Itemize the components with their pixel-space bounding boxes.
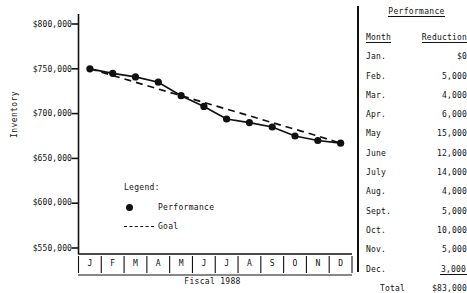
table-row: Nov.5,000 [366,240,467,259]
performance-table-panel: Performance Month Reduction Jan.$0Feb.5,… [366,0,467,293]
data-point-marker [109,70,116,77]
chart-plot-area [0,0,358,293]
x-tick-label: J [216,259,238,268]
data-point-marker [314,137,321,144]
data-point-marker [200,103,207,110]
goal-series-line [90,69,341,143]
performance-table: Month Reduction Jan.$0Feb.5,000Mar.4,000… [366,28,467,293]
table-cell-reduction: 3,000 [413,260,467,279]
table-header-reduction: Reduction [413,28,467,47]
chart-legend: Legend: Performance Goal [124,183,214,239]
x-tick-label: A [238,259,260,268]
table-total-row: Total$83,000 [366,279,467,293]
data-point-marker [155,79,162,86]
table-cell-reduction: 6,000 [413,105,467,124]
dashed-line-icon [124,226,158,227]
table-total-label: Total [366,279,413,293]
x-tick-label: D [330,259,352,268]
table-total-value: $83,000 [413,279,467,293]
filled-circle-icon [124,204,158,211]
chart-panel: Inventory $800,000 $750,000 $700,000 $65… [0,0,358,293]
x-tick-label: S [261,259,283,268]
table-title: Performance [366,7,467,16]
legend-title: Legend: [124,183,214,192]
data-point-marker [86,65,93,72]
table-row: Oct.10,000 [366,221,467,240]
table-row: Dec.3,000 [366,260,467,279]
x-tick-label: J [79,259,101,268]
table-header-month: Month [366,28,413,47]
legend-item-goal: Goal [124,220,214,233]
legend-item-performance: Performance [124,201,214,214]
table-cell-month: Sept. [366,202,413,221]
table-cell-month: July [366,163,413,182]
table-row: May15,000 [366,124,467,143]
table-cell-reduction: 15,000 [413,124,467,143]
table-cell-month: June [366,144,413,163]
x-tick-label: M [124,259,146,268]
x-tick-label: N [307,259,329,268]
table-cell-reduction: 4,000 [413,86,467,105]
chart-page: Inventory $800,000 $750,000 $700,000 $65… [0,0,467,293]
x-tick-label: M [170,259,192,268]
x-tick-label: J [193,259,215,268]
table-cell-month: Feb. [366,67,413,86]
table-row: July14,000 [366,163,467,182]
data-point-marker [337,140,344,147]
table-cell-month: Jan. [366,47,413,66]
legend-item-label: Goal [158,222,178,231]
table-row: Feb.5,000 [366,67,467,86]
table-cell-month: May [366,124,413,143]
table-cell-reduction: 5,000 [413,67,467,86]
table-cell-month: Dec. [366,260,413,279]
data-point-marker [246,119,253,126]
x-tick-label: A [147,259,169,268]
table-header-row: Month Reduction [366,28,467,47]
table-row: Mar.4,000 [366,86,467,105]
table-cell-reduction: 5,000 [413,240,467,259]
table-row: Aug.4,000 [366,182,467,201]
table-cell-reduction: 10,000 [413,221,467,240]
table-cell-reduction: 14,000 [413,163,467,182]
table-body: Jan.$0Feb.5,000Mar.4,000Apr.6,000May15,0… [366,47,467,293]
table-row: June12,000 [366,144,467,163]
panel-divider [357,6,359,272]
table-row: Apr.6,000 [366,105,467,124]
table-cell-month: Apr. [366,105,413,124]
table-cell-month: Mar. [366,86,413,105]
table-row: Sept.5,000 [366,202,467,221]
table-cell-reduction: 5,000 [413,202,467,221]
x-axis-title: Fiscal 1988 [75,277,350,286]
data-point-marker [132,73,139,80]
table-cell-month: Oct. [366,221,413,240]
table-cell-month: Aug. [366,182,413,201]
data-point-marker [178,92,185,99]
table-cell-reduction: 12,000 [413,144,467,163]
data-point-marker [223,115,230,122]
table-cell-reduction: 4,000 [413,182,467,201]
table-row: Jan.$0 [366,47,467,66]
data-point-marker [291,132,298,139]
table-cell-reduction: $0 [413,47,467,66]
x-tick-label: O [284,259,306,268]
performance-series-markers [86,65,344,147]
table-cell-month: Nov. [366,240,413,259]
x-tick-label: F [102,259,124,268]
data-point-marker [269,123,276,130]
legend-item-label: Performance [158,203,214,212]
